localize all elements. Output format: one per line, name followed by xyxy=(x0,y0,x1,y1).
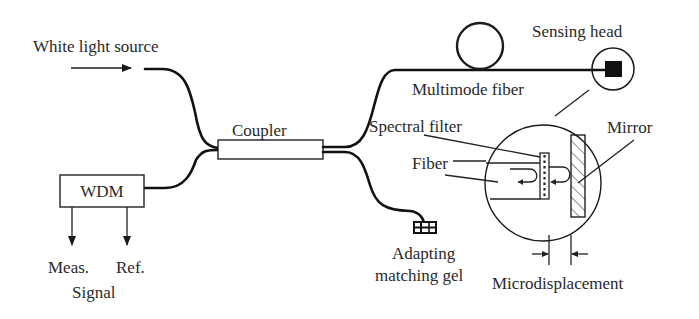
matching-gel-icon xyxy=(414,222,436,233)
fiber-loop xyxy=(457,23,503,69)
mirror-leader xyxy=(578,140,634,183)
sensing-head-label: Sensing head xyxy=(532,22,623,41)
fiber-label: Fiber xyxy=(412,154,448,173)
mirror-label: Mirror xyxy=(607,118,653,137)
coupler-box xyxy=(218,140,323,159)
beam-arrow-icon xyxy=(550,179,556,185)
wdm-label: WDM xyxy=(80,182,123,201)
microdisplacement-label: Microdisplacement xyxy=(492,274,624,293)
mirror xyxy=(571,135,585,217)
meas-label: Meas. xyxy=(48,258,89,277)
spectral-filter-label: Spectral filter xyxy=(369,117,462,136)
coupler-label: Coupler xyxy=(232,121,287,140)
multimode-fiber-label: Multimode fiber xyxy=(412,80,524,99)
gel-label-line2: matching gel xyxy=(375,266,464,285)
ref-label: Ref. xyxy=(116,258,145,277)
reflected-beam xyxy=(549,167,570,182)
gel-label-line1: Adapting xyxy=(392,244,456,263)
sensing-head-block xyxy=(605,61,622,77)
gel-fiber xyxy=(323,152,425,228)
detail-leader-line xyxy=(555,90,589,116)
spectral-filter xyxy=(540,153,549,199)
fiber-leader-2 xyxy=(445,175,498,182)
fiber-sensor-diagram: White light source Coupler Multimode fib… xyxy=(0,0,699,319)
wdm-fiber xyxy=(144,150,218,188)
source-label: White light source xyxy=(33,37,159,56)
source-fiber xyxy=(145,69,218,148)
microdisplacement-dimension xyxy=(532,235,588,265)
signal-label: Signal xyxy=(72,283,116,302)
